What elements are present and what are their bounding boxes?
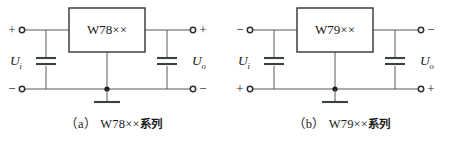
terminal-bottom-right-a[interactable] bbox=[190, 86, 195, 91]
caption-a: （a） W78××系列 bbox=[0, 113, 227, 132]
sign-bottom-right-b: + bbox=[427, 81, 434, 96]
terminal-bottom-right-b[interactable] bbox=[418, 86, 423, 91]
terminal-bottom-left-a[interactable] bbox=[19, 86, 24, 91]
caption-index-a: （a） bbox=[65, 117, 97, 131]
caption-label-b: W79×× bbox=[329, 117, 368, 131]
output-voltage-subscript-a: o bbox=[202, 61, 206, 71]
caption-index-b: （b） bbox=[293, 117, 326, 131]
caption-suffix-a: 系列 bbox=[140, 117, 162, 131]
sign-top-right-a: + bbox=[199, 22, 206, 37]
circuit-schematic-a: W78×× + − + − U i bbox=[0, 0, 227, 112]
sign-bottom-right-a: − bbox=[199, 81, 206, 96]
sign-bottom-left-a: − bbox=[8, 81, 15, 96]
terminal-top-right-a[interactable] bbox=[190, 27, 195, 32]
circuit-schematic-b: W79×× − + − + U i U o bbox=[228, 0, 455, 112]
regulator-label-b: W79×× bbox=[315, 22, 355, 37]
sign-top-right-b: − bbox=[427, 22, 434, 37]
terminal-bottom-left-b[interactable] bbox=[247, 86, 252, 91]
caption-label-a: W78×× bbox=[100, 117, 139, 131]
input-voltage-subscript-a: i bbox=[20, 61, 23, 71]
terminal-top-left-b[interactable] bbox=[247, 27, 252, 32]
terminal-top-right-b[interactable] bbox=[418, 27, 423, 32]
caption-suffix-b: 系列 bbox=[368, 117, 390, 131]
sign-bottom-left-b: + bbox=[236, 81, 243, 96]
circuit-figure-b: W79×× − + − + U i U o （b） W79××系列 bbox=[228, 0, 455, 143]
circuit-figure-a: W78×× + − + − U i bbox=[0, 0, 227, 143]
regulator-label-a: W78×× bbox=[87, 22, 127, 37]
input-voltage-subscript-b: i bbox=[248, 61, 251, 71]
sign-top-left-b: − bbox=[236, 22, 243, 37]
figure-canvas: W78×× + − + − U i bbox=[0, 0, 455, 143]
terminal-top-left-a[interactable] bbox=[19, 27, 24, 32]
sign-top-left-a: + bbox=[8, 22, 15, 37]
output-voltage-subscript-b: o bbox=[430, 61, 434, 71]
caption-b: （b） W79××系列 bbox=[228, 113, 455, 132]
